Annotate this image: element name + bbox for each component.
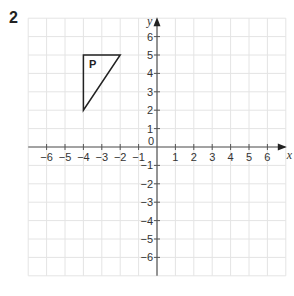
y-tick-label: −4 — [140, 215, 153, 227]
shape-label-P: P — [89, 58, 96, 70]
origin-label: 0 — [148, 135, 154, 147]
x-tick-label: −2 — [114, 151, 127, 163]
x-tick-label: −4 — [77, 151, 90, 163]
y-tick-label: −1 — [140, 159, 153, 171]
y-tick-label: −5 — [140, 233, 153, 245]
x-axis-label: x — [286, 148, 293, 162]
y-tick-label: 6 — [147, 31, 153, 43]
y-axis-label: y — [146, 14, 153, 28]
y-tick-label: 4 — [147, 67, 153, 79]
y-tick-label: 5 — [147, 49, 153, 61]
x-tick-label: −5 — [59, 151, 72, 163]
y-tick-label: −2 — [140, 178, 153, 190]
y-tick-label: 2 — [147, 104, 153, 116]
x-tick-label: 1 — [172, 151, 178, 163]
x-tick-label: 6 — [264, 151, 270, 163]
y-tick-label: −6 — [140, 251, 153, 263]
y-tick-label: 1 — [147, 123, 153, 135]
y-tick-label: −3 — [140, 196, 153, 208]
x-tick-label: −3 — [96, 151, 109, 163]
coordinate-grid: xy−6−5−4−3−2−1123456−6−5−4−3−2−11234560P — [0, 0, 294, 296]
x-tick-label: −6 — [40, 151, 53, 163]
x-tick-label: 3 — [209, 151, 215, 163]
x-tick-label: 4 — [228, 151, 234, 163]
y-tick-label: 3 — [147, 86, 153, 98]
x-tick-label: 5 — [246, 151, 252, 163]
x-tick-label: 2 — [191, 151, 197, 163]
